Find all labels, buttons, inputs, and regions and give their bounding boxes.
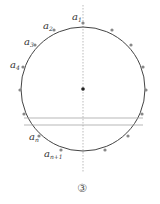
label-a1: a1 bbox=[72, 11, 82, 23]
label-a4: a4 bbox=[10, 59, 20, 71]
figure-caption: ③ bbox=[77, 182, 87, 195]
label-a3: a3 bbox=[24, 36, 34, 48]
label-a2: a2 bbox=[43, 20, 53, 32]
circle-diagram: a1 a2 a3 a4 an an+1 ③ bbox=[0, 0, 160, 204]
center-point bbox=[81, 87, 85, 91]
label-an: an bbox=[29, 131, 39, 143]
